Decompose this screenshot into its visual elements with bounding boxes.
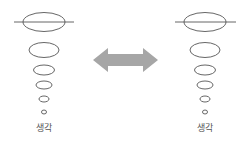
ellipse-3 [34,65,55,75]
ellipse-2 [190,43,220,58]
left-stack-label: 생각 [24,121,64,134]
right-ellipse-stack [175,13,236,115]
ellipse-5 [200,96,210,102]
ellipse-4 [36,81,52,89]
left-ellipse-stack [14,13,74,115]
ellipse-5 [39,96,49,102]
ellipse-4 [197,81,213,89]
ellipse-3 [195,65,216,75]
double-arrow-icon [93,48,158,72]
ellipse-2 [29,43,59,58]
ellipse-6 [203,110,208,114]
right-stack-label: 생각 [185,121,225,134]
ellipse-6 [42,110,47,114]
